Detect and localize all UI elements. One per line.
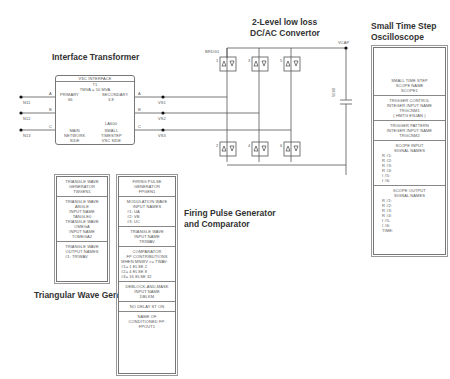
primary-value: 66 [68,97,73,102]
no-delay-section: NO DELAY ST ON [119,301,175,311]
switch-6-label: 6 [280,143,282,148]
tw-output-section: TRIANGLE WAVE OUTPUT NAMES #1: TRIWAV [57,241,107,261]
scope-input-section: SCOPE INPUT SIGNAL NAMES R #1: R #2: R #… [374,140,445,185]
converter-label-line1: 2-Level low loss [252,17,317,28]
switch-1-label: 1 [216,58,218,63]
tw-gen-section: TRIANGLE WAVE GENERATOR TWGEN1 [57,177,107,196]
tw-gen-3: TWGEN1 [59,189,105,194]
firing-label-line1: Firing Pulse Generator [184,208,276,219]
converter-label-line2: DC/AC Convertor [250,28,320,39]
small-timestep-line3: VSC SIDE [101,138,122,143]
tw-in-8: TOMEGA2 [59,234,105,239]
trigger-pattern-3: TRGCNM2 [376,133,443,138]
trigger-control-section: TRIGGER CONTROL INTEGER INPUT NAME TRGCN… [374,95,445,120]
scope-section: SMALL TIME STEP SCOPE NAME SCOPE1 [374,48,445,95]
scope-output-time: TIME: [376,228,443,233]
switch-5-label: 5 [280,58,282,63]
tri-in-3: TRIWAV [121,239,173,244]
fp-gen-section: FIRING PULSE GENERATOR FPGEN1 [119,177,175,196]
node-vs1: VS1 [158,100,166,105]
secondary-label: SECONDARY [102,92,128,97]
trigger-pattern-section: TRIGGER PATTERN INTEGER INPUT NAME TRGCN… [374,120,445,140]
oscilloscope-label-line1: Small Time Step [371,21,437,32]
deblock-3: DBLKM [121,294,173,299]
interface-transformer-label: Interface Transformer [52,52,139,63]
fp-gen-3: FPGEN1 [121,189,173,194]
no-delay-1: NO DELAY ST ON [121,304,173,309]
modulation-section: MODULATION WAVE INPUT NAMES #1: UA #2: V… [119,196,175,226]
firing-label-line2: and Comparator [184,219,250,230]
phase-a-left: A [49,91,52,96]
switch-2-label: 2 [216,143,218,148]
triangle-input-section: TRIANGLE WAVE INPUT NAME TRIWAV [119,226,175,246]
cond-fp-3: FPOUT1 [121,324,173,329]
switch-4-label: 4 [248,143,250,148]
secondary-value: 3.8 [108,97,114,102]
tw-input-section: TRIANGLE WAVE ANGLE INPUT NAME TANGLE0 T… [57,196,107,241]
comp-row-4: #3= 16 ELSE 32 [121,274,173,279]
bridge-name: BRDG1 [205,49,219,54]
phase-b-right: B [138,107,141,112]
scope-input-6: I #6: [376,178,443,183]
switch-3-label: 3 [248,58,250,63]
small-timestep-oscilloscope[interactable]: SMALL TIME STEP SCOPE NAME SCOPE1 TRIGGE… [373,47,446,255]
node-n12: N12 [23,116,31,121]
triangle-wave-generator[interactable]: TRIANGLE WAVE GENERATOR TWGEN1 TRIANGLE … [56,176,108,282]
comparator-section: COMPARATOR FP CONTRIBUTIONS WHEN MNWV >=… [119,246,175,281]
dc-node-vcap: VCAP [338,40,349,45]
tw-out-3: #1: TRIWAV [59,254,105,259]
scope-output-section: SCOPE OUTPUT SIGNAL NAMES R #1: R #2: R … [374,185,445,235]
phase-c-left: C [49,124,52,129]
main-network-line3: SIDE [64,138,85,143]
phase-b-left: B [49,107,52,112]
deblock-section: DEBLOCK-AND-MASK INPUT NAME DBLKM [119,281,175,301]
node-n11: N11 [23,100,30,105]
mod-row-3: #3: UC [121,219,173,224]
oscilloscope-label-line2: Oscilloscope [371,32,424,43]
node-vs3: VS3 [158,133,166,138]
scope-text-3: SCOPE1 [376,88,443,93]
conditioned-fp-section: NAME OF CONDITIONED FP: FPOUT1 [119,311,175,331]
phase-a-right: A [138,91,141,96]
phase-c-right: C [138,124,141,129]
trigger-control-4: ( Hmtg enjan ) [376,113,443,118]
node-vs2: VS2 [158,116,166,121]
firing-pulse-generator[interactable]: FIRING PULSE GENERATOR FPGEN1 MODULATION… [118,176,176,374]
capacitor-value: 5000 [331,88,336,97]
vsc-interface-transformer[interactable]: VSC INTERFACE T1 TMVA = 10 MVA PRIMARY 6… [55,75,135,145]
node-n13: N13 [23,133,31,138]
delta-label: LA600 [105,121,117,126]
